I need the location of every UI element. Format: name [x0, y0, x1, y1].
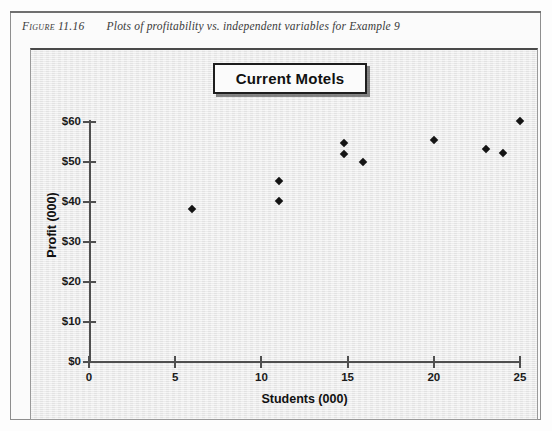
x-tick-label: 15 — [328, 372, 368, 384]
y-tick-label: $30 — [37, 236, 81, 248]
y-tick-mark — [83, 121, 96, 123]
data-point — [188, 205, 196, 213]
x-tick-mark — [174, 356, 176, 368]
data-point — [499, 149, 507, 157]
x-tick-label: 25 — [500, 372, 538, 384]
y-tick-label: $0 — [37, 356, 81, 368]
x-tick-label: 5 — [155, 372, 195, 384]
data-point — [340, 149, 348, 157]
x-tick-label: 10 — [241, 372, 281, 384]
data-point — [274, 197, 282, 205]
data-point — [481, 145, 489, 153]
data-point — [359, 157, 367, 165]
y-tick-label: $60 — [37, 116, 81, 128]
x-tick-mark — [519, 356, 521, 368]
x-tick-label: 20 — [414, 372, 454, 384]
y-tick-label: $50 — [37, 156, 81, 168]
y-tick-label-wrap: $0 — [31, 356, 81, 368]
y-tick-mark — [83, 281, 96, 283]
y-tick-label-wrap: $60 — [31, 116, 81, 128]
y-tick-label: $10 — [37, 316, 81, 328]
caption-divider — [10, 11, 541, 13]
figure-caption: Figure 11.16Plots of profitability vs. i… — [22, 20, 522, 38]
x-tick-label: 0 — [69, 372, 109, 384]
figure-number: Figure 11.16 — [22, 20, 85, 32]
x-tick-mark — [88, 356, 90, 368]
x-tick-mark — [347, 356, 349, 368]
figure-caption-text: Plots of profitability vs. independent v… — [107, 20, 400, 32]
y-tick-label-wrap: $10 — [31, 316, 81, 328]
page: Figure 11.16Plots of profitability vs. i… — [0, 0, 552, 431]
x-axis-title: Students (000) — [89, 392, 520, 406]
y-tick-label-wrap: $50 — [31, 156, 81, 168]
y-tick-mark — [83, 321, 96, 323]
data-point — [274, 177, 282, 185]
scatter-plot: $0$10$20$30$40$50$60 0510152025 Students… — [31, 50, 537, 419]
y-tick-label: $20 — [37, 276, 81, 288]
data-point — [340, 139, 348, 147]
y-tick-mark — [83, 161, 96, 163]
y-axis-title: Profit (000) — [45, 170, 59, 280]
y-tick-label: $40 — [37, 196, 81, 208]
x-tick-mark — [433, 356, 435, 368]
data-point — [516, 117, 524, 125]
y-tick-mark — [83, 201, 96, 203]
x-axis-line — [89, 361, 520, 363]
chart-panel: Current Motels $0$10$20$30$40$50$60 0510… — [30, 48, 538, 420]
data-point — [430, 136, 438, 144]
y-tick-mark — [83, 241, 96, 243]
x-tick-mark — [260, 356, 262, 368]
